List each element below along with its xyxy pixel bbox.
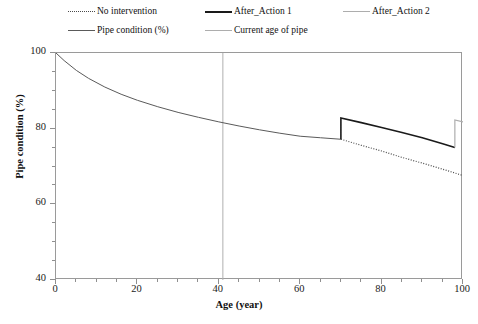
y-minor-tick (52, 71, 55, 72)
plot-area (55, 52, 462, 279)
legend-item: Current age of pipe (205, 25, 308, 35)
x-tick-label: 20 (116, 283, 156, 294)
x-minor-tick (360, 279, 361, 282)
legend-item-label: No intervention (97, 6, 157, 16)
legend-item-label: Current age of pipe (234, 25, 308, 35)
y-minor-tick (52, 260, 55, 261)
y-tick-label: 60 (0, 196, 46, 207)
x-minor-tick (197, 279, 198, 282)
legend-item: After_Action 2 (343, 6, 430, 16)
series-line (341, 118, 455, 148)
y-minor-tick (52, 166, 55, 167)
legend-line-swatch-icon (68, 7, 95, 16)
legend-item-label: After_Action 2 (372, 6, 430, 16)
x-minor-tick (442, 279, 443, 282)
legend-item-label: After_Action 1 (234, 6, 292, 16)
legend-item: No intervention (68, 6, 157, 16)
y-major-tick (50, 203, 55, 204)
y-minor-tick (52, 90, 55, 91)
x-axis-title: Age (year) (0, 299, 478, 310)
x-minor-tick (401, 279, 402, 282)
x-minor-tick (421, 279, 422, 282)
y-major-tick (50, 52, 55, 53)
legend-line-swatch-icon (205, 7, 232, 16)
x-tick-label: 100 (442, 283, 478, 294)
series-line (455, 120, 463, 148)
y-tick-label: 80 (0, 121, 46, 132)
x-minor-tick (157, 279, 158, 282)
legend-item-label: Pipe condition (%) (97, 25, 169, 35)
x-tick-label: 80 (361, 283, 401, 294)
x-minor-tick (340, 279, 341, 282)
x-minor-tick (177, 279, 178, 282)
x-tick-label: 60 (279, 283, 319, 294)
y-tick-label: 40 (0, 272, 46, 283)
x-minor-tick (75, 279, 76, 282)
y-tick-label: 100 (0, 45, 46, 56)
chart-legend: No interventionAfter_Action 1After_Actio… (0, 0, 478, 46)
figure-root: No interventionAfter_Action 1After_Actio… (0, 0, 478, 324)
y-axis-title: Pipe condition (%) (14, 57, 25, 217)
y-major-tick (50, 128, 55, 129)
series-line (56, 53, 341, 139)
plot-svg (56, 53, 463, 280)
y-minor-tick (52, 241, 55, 242)
y-minor-tick (52, 109, 55, 110)
x-tick-label: 0 (35, 283, 75, 294)
x-tick-label: 40 (198, 283, 238, 294)
x-minor-tick (279, 279, 280, 282)
legend-line-swatch-icon (68, 26, 95, 35)
legend-item: After_Action 1 (205, 6, 292, 16)
x-minor-tick (238, 279, 239, 282)
legend-line-swatch-icon (205, 26, 232, 35)
x-minor-tick (259, 279, 260, 282)
legend-line-swatch-icon (343, 7, 370, 16)
x-minor-tick (96, 279, 97, 282)
legend-item: Pipe condition (%) (68, 25, 169, 35)
y-minor-tick (52, 147, 55, 148)
x-minor-tick (320, 279, 321, 282)
y-minor-tick (52, 222, 55, 223)
x-minor-tick (116, 279, 117, 282)
y-minor-tick (52, 184, 55, 185)
